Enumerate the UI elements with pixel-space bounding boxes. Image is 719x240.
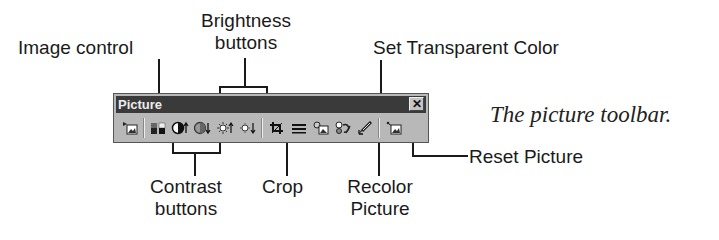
crop-icon xyxy=(269,121,285,135)
recolor-picture-button[interactable] xyxy=(332,117,353,139)
reset-picture-icon xyxy=(386,121,402,135)
toolbar-button-row xyxy=(116,115,426,141)
callout-contrast-line2: buttons xyxy=(136,198,236,220)
insert-picture-button[interactable] xyxy=(119,117,140,139)
more-contrast-button[interactable] xyxy=(169,117,190,139)
callout-reset-picture: Reset Picture xyxy=(469,146,583,168)
leader-brightness-bracket-top xyxy=(219,86,268,88)
leader-brightness-stem xyxy=(244,58,246,87)
line-style-icon xyxy=(291,121,307,135)
callout-contrast-line1: Contrast xyxy=(136,176,236,198)
callout-recolor-line2: Picture xyxy=(340,198,420,220)
contrast-down-icon xyxy=(193,121,211,135)
callout-brightness-line2: buttons xyxy=(186,32,306,54)
callout-brightness-line1: Brightness xyxy=(186,10,306,32)
less-brightness-button[interactable] xyxy=(236,117,257,139)
leader-reset-horizontal xyxy=(412,155,468,157)
contrast-up-icon xyxy=(171,121,189,135)
crop-button[interactable] xyxy=(266,117,287,139)
less-contrast-button[interactable] xyxy=(191,117,212,139)
picture-toolbar[interactable]: Picture ✕ xyxy=(113,93,429,143)
brightness-down-icon xyxy=(238,121,256,135)
leader-contrast-bracket-bottom xyxy=(172,152,221,154)
close-icon: ✕ xyxy=(412,97,422,111)
close-button[interactable]: ✕ xyxy=(409,97,424,111)
set-transparent-color-button[interactable] xyxy=(354,117,375,139)
leader-recolor xyxy=(378,143,380,176)
format-picture-icon xyxy=(313,121,329,135)
toolbar-titlebar[interactable]: Picture ✕ xyxy=(116,96,426,113)
callout-recolor: Recolor Picture xyxy=(340,176,420,220)
reset-picture-button[interactable] xyxy=(383,117,404,139)
image-control-icon xyxy=(150,121,166,135)
callout-contrast: Contrast buttons xyxy=(136,176,236,220)
leader-contrast-stem xyxy=(194,152,196,176)
separator xyxy=(378,118,380,138)
line-style-button[interactable] xyxy=(288,117,309,139)
image-control-button[interactable] xyxy=(147,117,168,139)
figure-caption: The picture toolbar. xyxy=(490,102,671,128)
format-picture-button[interactable] xyxy=(310,117,331,139)
brightness-up-icon xyxy=(216,121,234,135)
pen-icon xyxy=(357,121,373,135)
callout-image-control: Image control xyxy=(18,37,133,59)
callout-crop: Crop xyxy=(262,176,303,198)
leader-crop xyxy=(286,143,288,176)
insert-picture-icon xyxy=(122,121,138,135)
separator xyxy=(143,118,145,138)
callout-set-transparent-color: Set Transparent Color xyxy=(373,37,559,59)
separator xyxy=(261,118,263,138)
recolor-icon xyxy=(335,121,351,135)
callout-recolor-line1: Recolor xyxy=(340,176,420,198)
toolbar-title: Picture xyxy=(118,96,162,113)
callout-brightness: Brightness buttons xyxy=(186,10,306,54)
more-brightness-button[interactable] xyxy=(214,117,235,139)
